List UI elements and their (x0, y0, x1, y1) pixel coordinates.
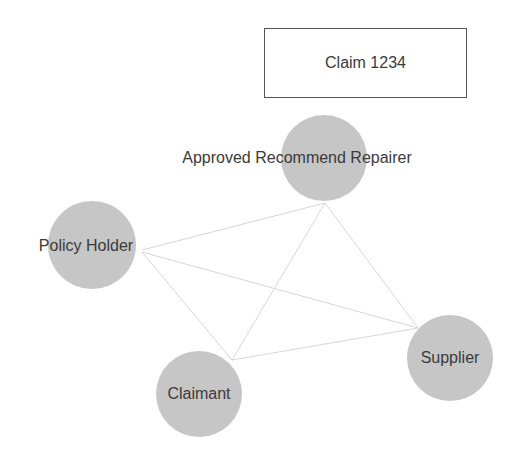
node-label-supplier: Supplier (421, 350, 480, 366)
node-label-policy-holder: Policy Holder (39, 238, 133, 254)
claim-title-box[interactable]: Claim 1234 (264, 28, 467, 98)
edge-policy-holder-claimant (142, 252, 232, 360)
edge-repairer-claimant (232, 203, 325, 360)
relationship-diagram: Claim 1234 Approved Recommend Repairer P… (0, 0, 515, 461)
node-label-repairer: Approved Recommend Repairer (182, 150, 411, 166)
edge-repairer-supplier (325, 203, 418, 328)
edges-layer (142, 203, 418, 360)
edge-policy-holder-repairer (142, 203, 325, 250)
edge-policy-holder-supplier (142, 252, 418, 328)
claim-title-label: Claim 1234 (325, 54, 406, 72)
edge-claimant-supplier (232, 328, 418, 360)
node-label-claimant: Claimant (167, 386, 230, 402)
